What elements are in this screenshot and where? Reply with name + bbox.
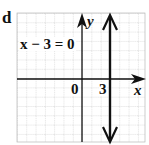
x-axis-label: x — [134, 83, 142, 97]
x-tick-3-label: 3 — [99, 82, 107, 96]
origin-label: 0 — [71, 82, 79, 96]
y-axis-label: y — [87, 14, 94, 28]
grid — [17, 13, 145, 142]
equation-label: x − 3 = 0 — [19, 37, 76, 51]
coordinate-graph — [0, 0, 149, 145]
